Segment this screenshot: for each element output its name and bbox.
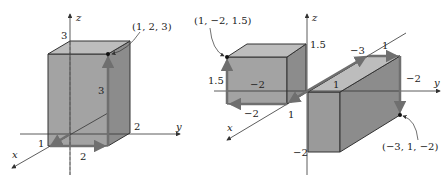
box-a-z-tick: 1.5 [310,39,326,50]
box-b-y-label: 1 [382,40,388,51]
box-b-near-label: 1 [333,79,339,90]
right-x-axis-label: x [227,122,233,133]
point-a-label: (1, −2, 1.5) [194,15,252,26]
point-1-2-3 [106,52,110,56]
z-tick: 3 [61,30,67,41]
box-b-top-label: −3 [350,45,365,56]
right-z-axis-label: z [311,12,318,23]
x-axis-label: x [12,149,18,160]
point-label: (1, 2, 3) [132,21,172,32]
y-axis-label: y [175,121,182,132]
coordinate-boxes-diagram: (1, 2, 3) z y x 3 2 1 2 3 [0,0,443,182]
left-box-side-face [108,41,130,146]
box-a-x-label: 1 [288,109,294,120]
box-b-side-label: −2 [406,73,421,84]
edge-height-label: 3 [98,85,104,96]
box-b-front-face [308,92,340,152]
box-b-z-label: −2 [293,147,308,158]
right-y-axis-label: y [433,77,440,88]
point-b-label: (−3, 1, −2) [382,141,438,152]
edge-y-label: 2 [80,151,86,162]
x-tick: 1 [38,138,44,149]
point-neg3-1-neg2 [398,113,402,117]
left-box-figure: (1, 2, 3) z y x 3 2 1 2 3 [12,12,182,175]
y-tick: 2 [134,121,140,132]
right-box-figure: (1, −2, 1.5) (−3, 1, −2) z y x 1.5 1.5 −… [194,12,440,175]
box-a-bottom-label: −2 [244,108,259,119]
box-a-height-label: 1.5 [208,75,224,86]
point-1-neg2-1.5 [225,55,229,59]
z-axis-label: z [75,12,82,23]
box-a-inner-label: −2 [250,79,265,90]
left-box-front-face [48,54,108,146]
